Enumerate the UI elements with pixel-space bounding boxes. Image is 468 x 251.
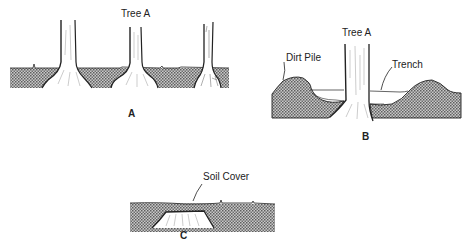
panel-a-caption: A [128, 108, 135, 119]
tree-3 [194, 22, 221, 88]
trench-label: Trench [392, 59, 423, 70]
diagram-svg [0, 0, 468, 251]
panel-b-caption: B [362, 131, 369, 142]
panel-b-tree-label: Tree A [342, 27, 371, 38]
diagram-canvas: Tree A A Tree A Dirt Pile Trench B Soil … [0, 0, 468, 251]
soil-cover-label: Soil Cover [203, 171, 249, 182]
panel-c [130, 184, 275, 232]
dirt-pile [272, 77, 344, 118]
panel-a-tree-label: Tree A [121, 8, 150, 19]
dirt-pile-label: Dirt Pile [286, 52, 321, 63]
trench-leader [381, 67, 392, 90]
panel-a [10, 20, 229, 88]
panel-c-caption: C [180, 230, 187, 241]
panel-a-ground-line [10, 64, 229, 68]
tree-2-tree-a [111, 27, 158, 88]
right-mound [370, 80, 461, 118]
soil-cover-leader [193, 184, 202, 201]
dirt-pile-leader [283, 62, 285, 80]
